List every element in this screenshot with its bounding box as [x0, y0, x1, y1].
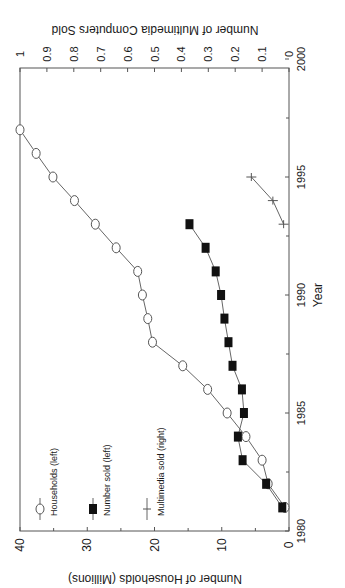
- marker-circle: [144, 314, 152, 324]
- right-y-tick-label: 1: [14, 51, 26, 57]
- right-y-tick-label: 0.1: [256, 46, 268, 61]
- marker-square: [234, 432, 242, 442]
- legend: Households (left)Number sold (left)Multi…: [36, 427, 166, 520]
- left-y-tick-label: 10: [215, 538, 229, 552]
- marker-circle: [148, 337, 156, 347]
- marker-square: [262, 479, 270, 489]
- marker-circle: [32, 148, 40, 158]
- right-y-tick-label: 0.8: [68, 46, 80, 61]
- marker-square: [224, 337, 232, 347]
- marker-square: [278, 502, 286, 512]
- marker-circle: [134, 266, 142, 276]
- marker-square: [217, 290, 225, 300]
- marker-circle: [112, 243, 120, 253]
- x-axis-label: Year: [311, 283, 325, 307]
- right-y-tick-label: 0: [283, 51, 295, 57]
- marker-circle: [223, 408, 231, 418]
- right-y-tick-label: 0.3: [202, 46, 214, 61]
- marker-square: [202, 243, 210, 253]
- marker-circle: [258, 455, 266, 465]
- series-line: [20, 130, 285, 508]
- marker-square: [212, 266, 220, 276]
- marker-circle: [242, 432, 250, 442]
- marker-circle: [138, 290, 146, 300]
- marker-circle: [91, 219, 99, 229]
- marker-circle: [16, 125, 24, 135]
- marker-square: [185, 219, 193, 229]
- right-y-tick-label: 0.6: [122, 46, 134, 61]
- marker-square: [238, 384, 246, 394]
- marker-square: [240, 408, 248, 418]
- series-line: [251, 177, 283, 224]
- x-tick-label: 1980: [295, 519, 307, 543]
- rotated-line-chart: 1980198519901995200001020304000.10.20.30…: [0, 0, 345, 588]
- legend-label: Multimedia sold (right): [156, 427, 166, 516]
- marker-square: [229, 361, 237, 371]
- marker-circle: [179, 361, 187, 371]
- right-y-tick-label: 0.7: [95, 46, 107, 61]
- right-y-tick-label: 0.5: [149, 46, 161, 61]
- left-y-tick-label: 0: [282, 541, 296, 548]
- left-y-tick-label: 40: [13, 538, 27, 552]
- left-y-tick-label: 20: [148, 538, 162, 552]
- legend-label: Number sold (left): [102, 444, 112, 516]
- marker-square: [220, 314, 228, 324]
- plot-frame: [20, 68, 289, 531]
- marker-circle: [49, 172, 57, 182]
- right-y-axis-label: Number of Multimedia Computers Sold: [52, 23, 259, 37]
- x-tick-label: 1985: [295, 401, 307, 425]
- left-y-tick-label: 30: [80, 538, 94, 552]
- x-tick-label: 2000: [295, 47, 307, 71]
- legend-label: Households (left): [49, 448, 59, 516]
- legend-marker-square: [89, 504, 97, 514]
- marker-square: [239, 455, 247, 465]
- legend-marker-circle: [36, 504, 44, 514]
- x-tick-label: 1995: [295, 165, 307, 189]
- x-tick-label: 1990: [295, 283, 307, 307]
- marker-circle: [70, 196, 78, 206]
- left-y-axis-label: Number of Households (Millions): [68, 572, 242, 586]
- right-y-tick-label: 0.4: [175, 46, 187, 61]
- right-y-tick-label: 0.2: [229, 46, 241, 61]
- marker-circle: [204, 384, 212, 394]
- right-y-tick-label: 0.9: [41, 46, 53, 61]
